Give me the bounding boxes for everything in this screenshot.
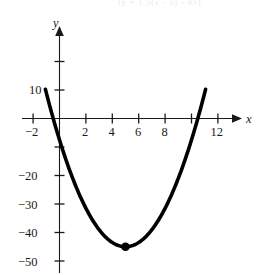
- x-tick-label--2: −2: [25, 125, 38, 139]
- x-tick-label-8: 8: [162, 125, 168, 139]
- x-axis-label: x: [245, 112, 252, 126]
- graph-canvas: y x −2 2 4 6 8 12 10 −20 −30 −40 −50: [0, 0, 260, 275]
- x-tick-label-12: 12: [211, 125, 224, 139]
- y-axis-label: y: [51, 16, 59, 30]
- parabola-figure: y x −2 2 4 6 8 12 10 −20 −30 −40 −50: [0, 0, 260, 275]
- y-tick-label--50: −50: [18, 255, 38, 269]
- x-axis-arrowhead: [232, 114, 242, 123]
- y-tick-label--30: −30: [18, 198, 38, 212]
- parabola-curve-group: [44, 26, 206, 264]
- x-tick-label-4: 4: [109, 125, 116, 139]
- y-tick-label--20: −20: [18, 169, 38, 183]
- x-tick-label-2: 2: [82, 125, 88, 139]
- y-tick-label--40: −40: [18, 226, 38, 240]
- vertex-point-marker: [121, 242, 130, 251]
- y-tick-label-10: 10: [29, 83, 42, 97]
- x-tick-label-6: 6: [135, 125, 141, 139]
